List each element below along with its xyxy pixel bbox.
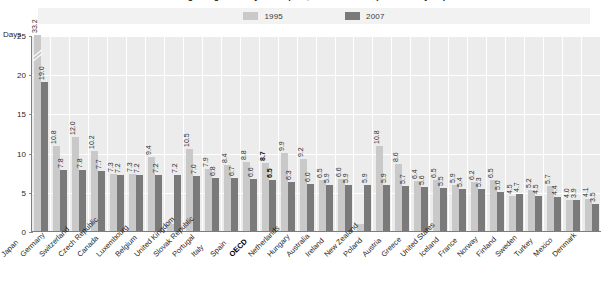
bar-group[interactable]: 12.07.8 (70, 36, 89, 231)
bar-1995[interactable]: 6.5 (319, 180, 326, 231)
bar-value-label: 7.7 (95, 159, 102, 169)
bar-group[interactable]: 5.24.5 (525, 36, 544, 231)
bar-group[interactable]: 33.219.0 (32, 36, 51, 231)
bar-group[interactable]: 6.55.5 (430, 36, 449, 231)
bar-value-label: 3.5 (589, 192, 596, 202)
bar-value-label: 5.7 (399, 175, 406, 185)
bar-group[interactable]: 10.57.0 (184, 36, 203, 231)
bar-value-label: 19.0 (38, 66, 45, 80)
bar-1995[interactable]: 10.8 (376, 146, 383, 231)
bar-2007[interactable]: 5.4 (459, 189, 466, 231)
bar-1995[interactable]: 7.9 (205, 169, 212, 231)
bar-group[interactable]: 5.9 (354, 36, 373, 231)
bar-group[interactable]: 6.65.9 (336, 36, 355, 231)
y-tick-label: 15 (2, 110, 26, 119)
bar-1995[interactable]: 7.3 (129, 174, 136, 231)
bar-group[interactable]: 10.85.9 (373, 36, 392, 231)
bar-2007[interactable]: 6.7 (231, 178, 238, 231)
bar-group[interactable]: 6.45.6 (411, 36, 430, 231)
bar-group[interactable]: 10.27.7 (89, 36, 108, 231)
bar-value-label: 7.2 (171, 163, 178, 173)
bar-value-label: 6.2 (468, 171, 475, 181)
bar-1995[interactable]: 5.9 (452, 185, 459, 231)
bar-1995[interactable]: 6.6 (338, 179, 345, 231)
bar-2007[interactable]: 4.5 (535, 196, 542, 231)
bar-group[interactable]: 9.26.0 (298, 36, 317, 231)
bar-group[interactable]: 5.74.4 (544, 36, 563, 231)
bar-value-label: 5.2 (525, 179, 532, 189)
bar-group[interactable]: 7.2 (165, 36, 184, 231)
bar-value-label: 33.2 (31, 19, 38, 33)
y-tick-label: 5 (2, 188, 26, 197)
bar-group[interactable]: 8.46.7 (222, 36, 241, 231)
y-tick-label: 20 (2, 71, 26, 80)
bar-group[interactable]: 9.47.2 (146, 36, 165, 231)
bar-1995[interactable]: 12.0 (72, 137, 79, 231)
bar-value-label: 9.2 (297, 147, 304, 157)
bar-2007[interactable]: 19.0 (41, 82, 48, 231)
bar-1995[interactable]: 6.2 (471, 182, 478, 231)
bar-group[interactable]: 4.13.5 (582, 36, 601, 231)
bar-2007[interactable]: 5.3 (478, 189, 485, 231)
bar-2007[interactable]: 6.8 (212, 178, 219, 231)
bar-2007[interactable]: 6.6 (250, 179, 257, 231)
bar-2007[interactable]: 6.0 (307, 184, 314, 231)
bar-value-label: 6.0 (304, 172, 311, 182)
legend-label-1995: 1995 (264, 12, 283, 21)
bar-group[interactable]: 7.96.8 (203, 36, 222, 231)
y-axis: 0510152025 (0, 36, 31, 232)
bar-1995[interactable]: 4.1 (585, 199, 592, 231)
bar-group[interactable]: 7.37.2 (108, 36, 127, 231)
bar-value-label: 5.9 (361, 173, 368, 183)
bar-group[interactable]: 8.65.7 (392, 36, 411, 231)
bar-2007[interactable]: 5.0 (497, 192, 504, 231)
bar-group[interactable]: 4.54.7 (506, 36, 525, 231)
bar-value-label: 5.7 (544, 175, 551, 185)
bar-group[interactable]: 4.03.9 (563, 36, 582, 231)
bar-1995[interactable]: 4.0 (566, 200, 573, 231)
bar-2007[interactable]: 5.9 (326, 185, 333, 231)
bar-group[interactable]: 6.55.0 (487, 36, 506, 231)
bar-group[interactable]: 5.95.4 (449, 36, 468, 231)
bar-1995[interactable]: 4.5 (509, 196, 516, 231)
bar-1995[interactable]: 6.4 (414, 181, 421, 231)
bar-value-label: 6.5 (430, 168, 437, 178)
bar-value-label: 4.7 (513, 182, 520, 192)
bar-1995[interactable]: 9.2 (300, 159, 307, 231)
bar-2007[interactable]: 7.2 (136, 175, 143, 231)
bar-group[interactable]: 7.37.2 (127, 36, 146, 231)
bar-1995[interactable]: 7.3 (110, 174, 117, 231)
bar-1995[interactable]: 9.9 (281, 153, 288, 231)
bar-value-label: 8.6 (392, 152, 399, 162)
legend-swatch-1995 (243, 12, 258, 20)
bar-group[interactable]: 8.76.5 (260, 36, 279, 231)
bar-group[interactable]: 8.86.6 (241, 36, 260, 231)
bar-value-label: 6.5 (487, 168, 494, 178)
bar-value-label: 6.6 (335, 168, 342, 178)
bar-1995[interactable]: 33.2 (34, 35, 41, 231)
bar-2007[interactable]: 5.7 (402, 186, 409, 231)
bar-group[interactable]: 10.87.8 (51, 36, 70, 231)
plot-area: 0510152025 33.219.010.87.812.07.810.27.7… (0, 36, 609, 236)
bar-2007[interactable]: 5.5 (440, 188, 447, 231)
axis-break-marker (33, 49, 42, 61)
bar-value-label: 6.5 (316, 168, 323, 178)
bar-group[interactable]: 6.25.3 (468, 36, 487, 231)
bar-2007[interactable]: 5.9 (383, 185, 390, 231)
bar-1995[interactable]: 5.2 (528, 190, 535, 231)
bar-2007[interactable]: 5.9 (364, 185, 371, 231)
bar-value-label: 5.6 (418, 175, 425, 185)
bar-2007[interactable]: 4.4 (554, 197, 561, 231)
bar-2007[interactable]: 4.7 (516, 194, 523, 231)
bar-group[interactable]: 6.55.9 (317, 36, 336, 231)
bar-value-label: 8.7 (259, 151, 266, 161)
bar-2007[interactable]: 3.9 (573, 200, 580, 231)
bar-group[interactable]: 9.96.3 (279, 36, 298, 231)
bar-2007[interactable]: 3.5 (592, 204, 599, 231)
bar-value-label: 5.9 (449, 173, 456, 183)
bar-2007[interactable]: 6.3 (288, 182, 295, 231)
bar-2007[interactable]: 7.8 (60, 170, 67, 231)
bar-value-label: 8.8 (240, 150, 247, 160)
y-tick-mark (29, 232, 33, 233)
bar-value-label: 6.5 (266, 168, 273, 178)
